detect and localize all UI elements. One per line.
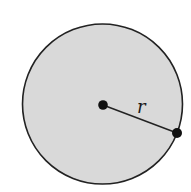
center-point bbox=[98, 100, 108, 110]
circle-diagram: r bbox=[0, 0, 191, 192]
radius-label: r bbox=[137, 96, 147, 117]
edge-point bbox=[172, 128, 182, 138]
